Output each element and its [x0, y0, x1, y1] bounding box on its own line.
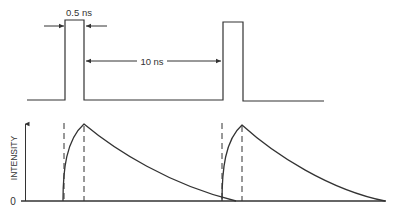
period-label: 10 ns — [140, 56, 163, 67]
pulse-width-label: 0.5 ns — [66, 7, 92, 18]
y-axis-label: INTENSITY — [9, 135, 19, 180]
pulse-width-annotation: 0.5 ns — [44, 7, 107, 26]
diagram-canvas: 0.5 ns 10 ns 0 INTENSITY — [0, 0, 396, 213]
intensity-curve-2 — [222, 125, 385, 201]
intensity-plot: 0 INTENSITY — [9, 123, 386, 207]
intensity-curve-1 — [63, 124, 236, 201]
period-annotation: 10 ns — [86, 56, 221, 67]
origin-label: 0 — [10, 196, 16, 207]
